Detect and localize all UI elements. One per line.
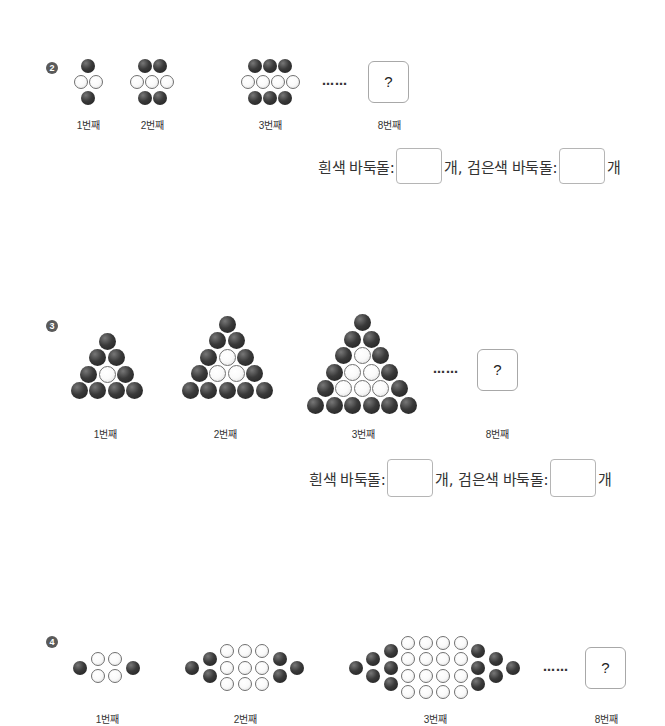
black-stone: [489, 652, 503, 666]
black-stone: [471, 644, 485, 658]
black-stone: [506, 661, 520, 675]
unknown-step-box: ?: [585, 647, 626, 689]
black-stone: [273, 669, 287, 683]
white-stone: [401, 636, 415, 650]
white-stone: [454, 652, 468, 666]
white-stone: [255, 677, 269, 691]
black-stone: [349, 661, 363, 675]
black-stone: [471, 677, 485, 691]
white-stone: [419, 685, 433, 699]
black-stone: [126, 661, 140, 675]
black-stone: [185, 661, 199, 675]
black-stone: [273, 652, 287, 666]
white-stone: [220, 661, 234, 675]
problem-number-marker-4: 4: [46, 636, 58, 648]
step-label: 1번째: [96, 711, 119, 726]
white-stone: [436, 669, 450, 683]
white-stone: [108, 669, 122, 683]
black-stone: [203, 669, 217, 683]
black-stone: [366, 669, 380, 683]
white-stone: [419, 669, 433, 683]
white-stone: [255, 644, 269, 658]
white-stone: [419, 636, 433, 650]
black-stone: [203, 652, 217, 666]
white-stone: [401, 685, 415, 699]
problem-4: 4 1번째 2번째 3번째 …… ? 8번째: [0, 0, 665, 726]
white-stone: [238, 677, 252, 691]
black-stone: [384, 677, 398, 691]
white-stone: [401, 669, 415, 683]
step-label-target: 8번째: [595, 711, 618, 726]
black-stone: [489, 669, 503, 683]
black-stone: [73, 661, 87, 675]
step-label: 3번째: [424, 711, 447, 726]
white-stone: [108, 652, 122, 666]
white-stone: [255, 661, 269, 675]
white-stone: [454, 636, 468, 650]
black-stone: [384, 661, 398, 675]
white-stone: [454, 669, 468, 683]
black-stone: [471, 661, 485, 675]
black-stone: [290, 661, 304, 675]
white-stone: [220, 644, 234, 658]
white-stone: [436, 685, 450, 699]
white-stone: [238, 661, 252, 675]
white-stone: [401, 652, 415, 666]
white-stone: [436, 652, 450, 666]
white-stone: [238, 644, 252, 658]
black-stone: [366, 652, 380, 666]
white-stone: [454, 685, 468, 699]
white-stone: [91, 652, 105, 666]
white-stone: [91, 669, 105, 683]
ellipsis: ……: [543, 660, 569, 674]
white-stone: [419, 652, 433, 666]
step-label: 2번째: [234, 711, 257, 726]
white-stone: [220, 677, 234, 691]
black-stone: [384, 644, 398, 658]
white-stone: [436, 636, 450, 650]
